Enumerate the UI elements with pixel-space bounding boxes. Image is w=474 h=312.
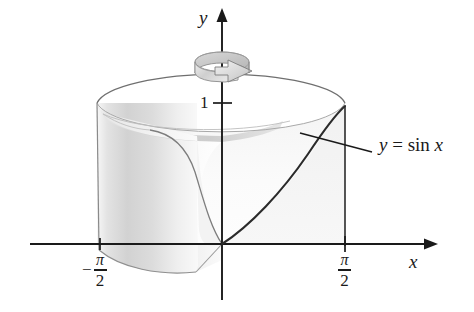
figure-canvas <box>0 0 474 312</box>
x-axis-label: x <box>409 252 417 271</box>
minus-sign: − <box>82 260 92 280</box>
fraction-numerator: π <box>339 252 349 268</box>
fraction-stack: π 2 <box>338 252 351 289</box>
x-tick-label-neg-half-pi: − π 2 <box>82 252 107 289</box>
y-axis-label: y <box>199 8 207 27</box>
sine-function-name: sin <box>408 134 430 155</box>
fraction-numerator: π <box>95 252 105 268</box>
x-axis-arrowhead <box>424 239 438 250</box>
fraction-denominator: 2 <box>339 272 350 289</box>
y-axis-arrowhead <box>217 8 228 22</box>
equation-variable: x <box>435 134 443 155</box>
rotation-arrow <box>195 52 252 82</box>
solid-of-revolution-figure: y x 1 − π 2 π 2 y = sin x <box>0 0 474 312</box>
y-tick-label-one: 1 <box>200 94 209 111</box>
x-tick-label-half-pi: π 2 <box>338 252 351 289</box>
fraction-denominator: 2 <box>95 272 106 289</box>
equals-sign: = <box>392 134 403 155</box>
fraction-stack: π 2 <box>94 252 107 289</box>
curve-equation-label: y = sin x <box>379 135 443 154</box>
